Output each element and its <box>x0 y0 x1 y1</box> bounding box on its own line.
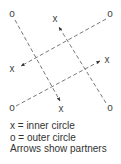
outer-bottom-right-marker: o <box>107 102 113 113</box>
inner-right-marker: x <box>105 54 110 65</box>
partner-arrow-outer-top-right-to-inner-left <box>21 19 106 66</box>
partner-arrows <box>15 19 106 106</box>
legend: x = inner circle o = outer circle Arrows… <box>10 120 107 155</box>
partner-diagram: oxoxxoxo <box>0 0 121 120</box>
legend-outer-circle: o = outer circle <box>10 132 107 144</box>
partner-arrow-outer-bottom-right-to-inner-top <box>59 27 106 103</box>
inner-bottom-marker: x <box>59 103 64 114</box>
legend-arrows-note: Arrows show partners <box>10 143 107 155</box>
outer-bottom-left-marker: o <box>9 102 15 113</box>
partner-arrow-outer-top-left-to-inner-bottom <box>15 20 60 101</box>
outer-top-right-marker: o <box>107 8 113 19</box>
partner-arrow-outer-bottom-left-to-inner-right <box>16 61 100 106</box>
inner-left-marker: x <box>10 63 15 74</box>
inner-top-marker: x <box>53 13 58 24</box>
legend-inner-circle: x = inner circle <box>10 120 107 132</box>
outer-top-left-marker: o <box>9 8 15 19</box>
